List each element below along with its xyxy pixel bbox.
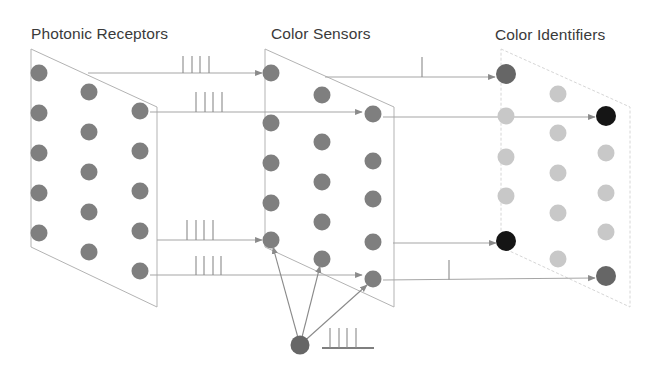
neuron-node — [132, 103, 149, 120]
neuron-node — [263, 232, 280, 249]
neuron-node — [31, 185, 48, 202]
neuron-node — [263, 115, 280, 132]
neuron-node — [598, 185, 615, 202]
neuron-node — [81, 204, 98, 221]
neuron-node — [598, 224, 615, 241]
neuron-node — [496, 231, 516, 251]
neuron-node — [598, 145, 615, 162]
neuron-node — [132, 143, 149, 160]
neuron-node — [596, 106, 616, 126]
neuron-node — [365, 271, 382, 288]
neural-layer-diagram — [0, 0, 653, 378]
neuron-node — [81, 164, 98, 181]
neuron-node — [550, 165, 567, 182]
neuron-node — [550, 86, 567, 103]
neuron-node — [81, 124, 98, 141]
neuron-node — [365, 191, 382, 208]
neuron-node — [263, 65, 280, 82]
modulator-node — [291, 336, 310, 355]
layer-panels — [31, 49, 630, 307]
neuron-node — [81, 244, 98, 261]
neuron-node — [550, 205, 567, 222]
neuron-node — [498, 188, 515, 205]
neuron-node — [132, 183, 149, 200]
neuron-node — [31, 105, 48, 122]
neuron-node — [550, 125, 567, 142]
neuron-node — [496, 64, 516, 84]
neuron-node — [596, 266, 616, 286]
neurons — [31, 64, 617, 288]
neuron-node — [550, 251, 567, 268]
neuron-node — [314, 134, 331, 151]
neuron-node — [314, 214, 331, 231]
neuron-node — [31, 65, 48, 82]
neuron-node — [498, 149, 515, 166]
neuron-node — [314, 174, 331, 191]
modulator-arrow — [300, 266, 320, 345]
neuron-node — [132, 263, 149, 280]
neuron-node — [263, 195, 280, 212]
neuron-node — [263, 155, 280, 172]
neuron-node — [365, 153, 382, 170]
neuron-node — [81, 84, 98, 101]
neuron-node — [365, 106, 382, 123]
neuron-node — [314, 251, 331, 268]
neuron-node — [498, 108, 515, 125]
neuron-node — [365, 234, 382, 251]
neuron-node — [314, 87, 331, 104]
neuron-node — [31, 225, 48, 242]
connection-arrow — [383, 278, 595, 280]
neuron-node — [31, 145, 48, 162]
modulator-arrow — [300, 285, 367, 345]
connections — [88, 56, 595, 280]
neuron-node — [132, 223, 149, 240]
